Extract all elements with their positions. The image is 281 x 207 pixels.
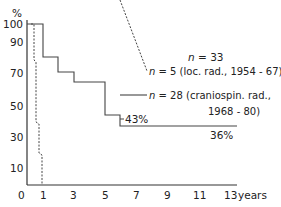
y-tick-10: 10 (10, 163, 23, 174)
annotation-36: 36% (210, 130, 233, 141)
legend-solid-label: n = 28 (craniospin. rad., (149, 90, 271, 101)
x-tick-9: 9 (164, 190, 171, 201)
x-tick-7: 7 (133, 190, 140, 201)
y-tick-70: 70 (10, 68, 23, 79)
survival-chart (0, 0, 281, 207)
x-axis-unit: years (238, 190, 267, 201)
x-tick-5: 5 (102, 190, 109, 201)
x-tick-0: 0 (18, 190, 25, 201)
y-tick-100: 100 (3, 19, 23, 30)
y-tick-50: 50 (10, 101, 23, 112)
legend-solid-label-years: 1968 - 80) (208, 106, 260, 117)
n-total-label: n = 33 (188, 52, 224, 63)
x-tick-11: 11 (193, 190, 206, 201)
x-tick-1: 1 (40, 190, 47, 201)
series-dashed-line (31, 24, 42, 185)
annotation-43: 43% (125, 114, 148, 125)
legend-dashed-label: n = 5 (loc. rad., 1954 - 67) (149, 66, 281, 77)
x-tick-3: 3 (70, 190, 77, 201)
y-tick-90: 90 (10, 37, 23, 48)
y-tick-30: 30 (10, 132, 23, 143)
legend-dashed-sample (120, 0, 147, 71)
x-tick-13: 13 (224, 190, 237, 201)
